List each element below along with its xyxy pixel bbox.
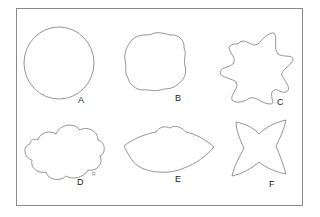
label-d: D xyxy=(77,178,84,187)
label-e: E xyxy=(175,175,181,184)
label-f: F xyxy=(269,180,275,189)
shape-a-circle xyxy=(24,27,94,99)
shape-f-four-point-star xyxy=(232,120,286,176)
label-b: B xyxy=(175,94,181,103)
shape-e-lemon xyxy=(124,126,214,172)
shape-b-wavy-square xyxy=(125,33,186,91)
label-c: C xyxy=(277,98,284,107)
registered-mark: R xyxy=(92,172,96,177)
label-a: A xyxy=(78,96,84,105)
shape-c-star xyxy=(220,33,293,104)
